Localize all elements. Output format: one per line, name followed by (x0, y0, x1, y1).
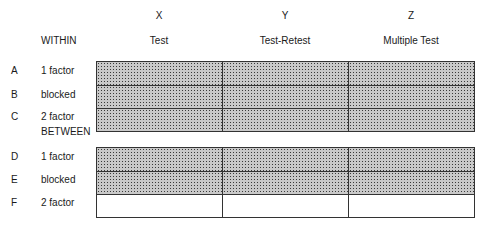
cell-f-z (348, 195, 474, 217)
cell-b-x (97, 86, 222, 108)
cell-e-z (348, 172, 474, 194)
row-label-d: 1 factor (41, 151, 74, 162)
grid-row-a (97, 62, 474, 85)
cell-c-x (97, 109, 222, 131)
section-heading-between: BETWEEN (41, 126, 90, 137)
cell-a-y (222, 62, 348, 85)
row-letter-f: F (11, 197, 23, 208)
cell-c-z (348, 109, 474, 131)
row-label-f: 2 factor (41, 197, 74, 208)
section-heading-within: WITHIN (41, 35, 77, 46)
grid-row-e (97, 171, 474, 194)
cell-e-y (222, 172, 348, 194)
grid-row-f (97, 194, 474, 217)
cell-b-y (222, 86, 348, 108)
row-label-e: blocked (41, 174, 75, 185)
row-label-a: 1 factor (41, 65, 74, 76)
column-name-test-retest: Test-Retest (222, 35, 348, 46)
row-letter-a: A (11, 65, 23, 76)
cell-f-x (97, 195, 222, 217)
column-name-multiple-test: Multiple Test (348, 35, 474, 46)
cell-b-z (348, 86, 474, 108)
within-grid (96, 61, 475, 132)
between-grid (96, 147, 475, 218)
column-letter-z: Z (348, 10, 474, 21)
cell-d-y (222, 148, 348, 171)
cell-f-y (222, 195, 348, 217)
column-letter-y: Y (222, 10, 348, 21)
cell-d-x (97, 148, 222, 171)
cell-a-z (348, 62, 474, 85)
cell-a-x (97, 62, 222, 85)
row-label-b: blocked (41, 89, 75, 100)
row-letter-e: E (11, 174, 23, 185)
row-letter-d: D (11, 151, 23, 162)
column-name-test: Test (96, 35, 222, 46)
cell-c-y (222, 109, 348, 131)
row-label-c: 2 factor (41, 111, 74, 122)
row-letter-c: C (11, 111, 23, 122)
cell-e-x (97, 172, 222, 194)
column-letter-x: X (96, 10, 222, 21)
grid-row-b (97, 85, 474, 108)
row-letter-b: B (11, 89, 23, 100)
cell-d-z (348, 148, 474, 171)
grid-row-c (97, 108, 474, 131)
grid-row-d (97, 148, 474, 171)
